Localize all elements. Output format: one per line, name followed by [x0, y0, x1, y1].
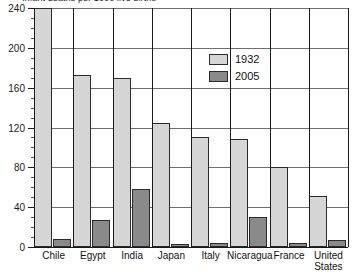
- bar-egypt-1932: [73, 75, 91, 247]
- bar-india-1932: [113, 78, 131, 247]
- category-separator-1: [113, 8, 114, 247]
- legend-label-2005: 2005: [235, 70, 259, 82]
- y-axis-label-40: 40: [14, 202, 25, 213]
- bar-japan-1932: [152, 123, 170, 247]
- bar-france-1932: [270, 167, 288, 247]
- legend-item-2005: 2005: [209, 69, 259, 83]
- category-separator-0: [73, 8, 74, 247]
- category-separator-6: [309, 8, 310, 247]
- y-axis-line: [34, 8, 35, 247]
- y-axis-label-0: 0: [19, 242, 25, 253]
- bar-chart: Infant deaths per 1000 live births 24020…: [0, 0, 354, 278]
- plot-area: 24020016012080400: [34, 8, 348, 247]
- bar-united-states-2005: [328, 240, 346, 247]
- y-axis-label-120: 120: [8, 122, 25, 133]
- bar-chile-2005: [53, 239, 71, 247]
- y-axis-label-160: 160: [8, 82, 25, 93]
- bar-united-states-1932: [309, 196, 327, 247]
- category-separator-2: [152, 8, 153, 247]
- bar-italy-1932: [191, 137, 209, 247]
- x-axis-label-united-states: United States: [303, 250, 354, 272]
- bar-nicaragua-2005: [249, 217, 267, 247]
- y-axis-label-80: 80: [14, 162, 25, 173]
- legend-swatch-1932: [209, 54, 228, 65]
- bar-nicaragua-1932: [230, 139, 248, 247]
- category-separator-4: [230, 8, 231, 247]
- y-axis-label-240: 240: [8, 3, 25, 14]
- chart-title: Infant deaths per 1000 live births: [22, 0, 156, 3]
- legend-label-1932: 1932: [235, 53, 259, 65]
- category-separator-3: [191, 8, 192, 247]
- y-axis-label-200: 200: [8, 42, 25, 53]
- legend-swatch-2005: [209, 71, 228, 82]
- legend: 1932 2005: [209, 52, 259, 86]
- bar-india-2005: [132, 189, 150, 247]
- legend-item-1932: 1932: [209, 52, 259, 66]
- bar-chile-1932: [34, 8, 52, 247]
- x-axis-line: [28, 247, 348, 248]
- category-separator-5: [270, 8, 271, 247]
- bar-egypt-2005: [92, 220, 110, 247]
- category-separator-7: [348, 8, 349, 247]
